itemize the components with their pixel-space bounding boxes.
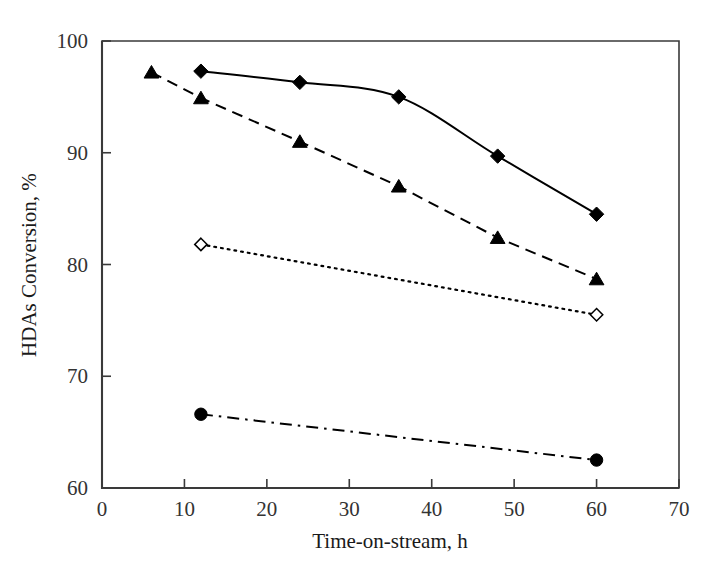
- y-tick-label: 70: [67, 364, 88, 388]
- x-tick-label: 40: [421, 497, 442, 521]
- data-point-open-diamond: [590, 309, 602, 321]
- series-dotted-open-diamond: [195, 238, 603, 321]
- data-point-open-diamond: [195, 238, 207, 250]
- series-dashed-filled-triangle: [144, 65, 604, 284]
- data-point-filled-triangle: [391, 179, 406, 192]
- y-tick-label: 80: [67, 253, 88, 277]
- x-tick-label: 50: [504, 497, 525, 521]
- data-series-layer: [144, 64, 604, 466]
- x-axis-ticks: 010203040506070: [97, 479, 690, 521]
- x-tick-label: 30: [339, 497, 360, 521]
- chart-figure: 010203040506070 60708090100 Time-on-stre…: [0, 0, 722, 571]
- y-tick-label: 60: [67, 476, 88, 500]
- x-tick-label: 20: [256, 497, 277, 521]
- y-tick-label: 100: [57, 29, 89, 53]
- x-axis-title: Time-on-stream, h: [312, 529, 468, 553]
- y-axis-title: HDAs Conversion, %: [17, 173, 41, 357]
- data-point-filled-triangle: [144, 65, 159, 78]
- data-point-filled-diamond: [392, 90, 406, 104]
- data-point-filled-diamond: [490, 149, 504, 163]
- data-point-filled-diamond: [293, 75, 307, 89]
- series-solid-filled-diamond: [194, 64, 604, 221]
- data-point-filled-triangle: [589, 272, 604, 285]
- x-tick-label: 10: [174, 497, 195, 521]
- data-point-filled-diamond: [589, 207, 603, 221]
- x-tick-label: 0: [97, 497, 108, 521]
- line-chart: 010203040506070 60708090100 Time-on-stre…: [0, 0, 722, 571]
- axes-frame: [102, 41, 679, 488]
- data-point-filled-circle: [195, 408, 207, 420]
- series-dashdot-filled-circle: [195, 408, 603, 466]
- data-point-filled-triangle: [194, 91, 209, 104]
- series-line: [201, 414, 597, 460]
- data-point-filled-circle: [590, 454, 602, 466]
- data-point-filled-triangle: [292, 135, 307, 148]
- y-tick-label: 90: [67, 141, 88, 165]
- x-tick-label: 60: [586, 497, 607, 521]
- data-point-filled-triangle: [490, 231, 505, 244]
- x-tick-label: 70: [669, 497, 690, 521]
- series-line: [201, 244, 597, 314]
- data-point-filled-diamond: [194, 64, 208, 78]
